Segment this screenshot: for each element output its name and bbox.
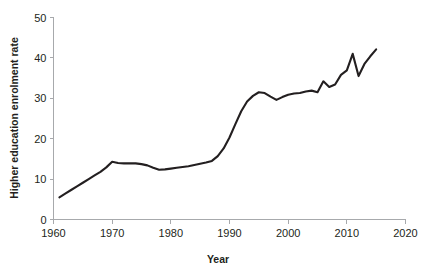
y-axis-tick-labels: 01020304050 — [34, 12, 46, 226]
x-axis-title: Year — [207, 253, 229, 265]
x-tick-label: 2020 — [393, 227, 417, 239]
data-series-line — [59, 49, 376, 197]
x-tick-label: 1990 — [217, 227, 241, 239]
line-chart: 01020304050 1960197019801990200020102020… — [0, 0, 435, 271]
chart-tick-marks — [50, 18, 406, 224]
chart-container: 01020304050 1960197019801990200020102020… — [0, 0, 435, 271]
x-tick-label: 1980 — [159, 227, 183, 239]
y-tick-label: 10 — [34, 173, 46, 185]
y-tick-label: 0 — [40, 214, 46, 226]
y-tick-label: 40 — [34, 52, 46, 64]
x-tick-label: 1970 — [100, 227, 124, 239]
x-tick-label: 2010 — [335, 227, 359, 239]
y-tick-label: 20 — [34, 133, 46, 145]
y-tick-label: 50 — [34, 12, 46, 24]
y-axis-title: Higher education enrolment rate — [8, 37, 20, 199]
y-tick-label: 30 — [34, 92, 46, 104]
x-tick-label: 2000 — [276, 227, 300, 239]
x-tick-label: 1960 — [41, 227, 65, 239]
x-axis-tick-labels: 1960197019801990200020102020 — [41, 227, 417, 239]
chart-axes — [54, 17, 406, 220]
